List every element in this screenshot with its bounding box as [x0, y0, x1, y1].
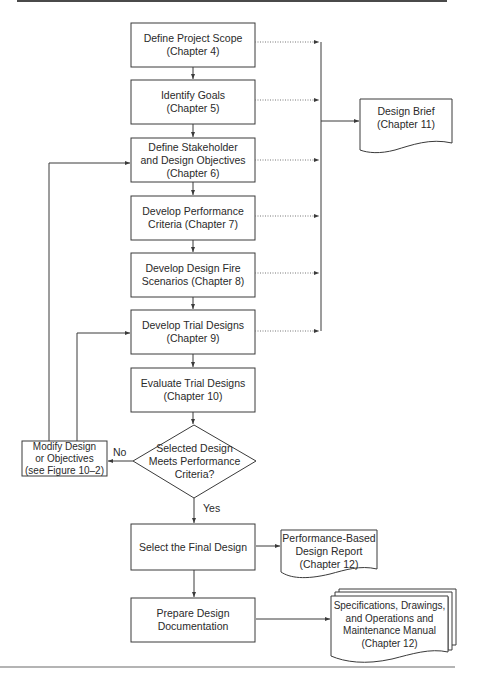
label-prepare-docs: Prepare Design Documentation — [131, 598, 255, 642]
label-decision: Selected Design Meets Performance Criter… — [133, 425, 256, 498]
loop-modify-to-objectives — [49, 163, 130, 441]
label-design-brief: Design Brief (Chapter 11) — [360, 99, 452, 137]
label-performance-criteria: Develop Performance Criteria (Chapter 7) — [131, 196, 255, 240]
loop-modify-to-trial — [77, 333, 130, 441]
label-define-objectives: Define Stakeholder and Design Objectives… — [131, 138, 255, 182]
label-modify-design: Modify Design or Objectives (see Figure … — [22, 441, 107, 476]
label-evaluate-designs: Evaluate Trial Designs (Chapter 10) — [131, 368, 255, 412]
label-identify-goals: Identify Goals (Chapter 5) — [131, 80, 255, 124]
label-select-final: Select the Final Design — [131, 524, 255, 570]
edge-label-yes: Yes — [203, 502, 220, 514]
label-trial-designs: Develop Trial Designs (Chapter 9) — [131, 310, 255, 354]
label-fire-scenarios: Develop Design Fire Scenarios (Chapter 8… — [131, 253, 255, 297]
edge-label-no: No — [113, 446, 126, 458]
label-define-scope: Define Project Scope (Chapter 4) — [131, 23, 255, 67]
label-report: Performance-Based Design Report (Chapter… — [281, 530, 377, 572]
label-specs: Specifications, Drawings, and Operations… — [331, 596, 448, 654]
